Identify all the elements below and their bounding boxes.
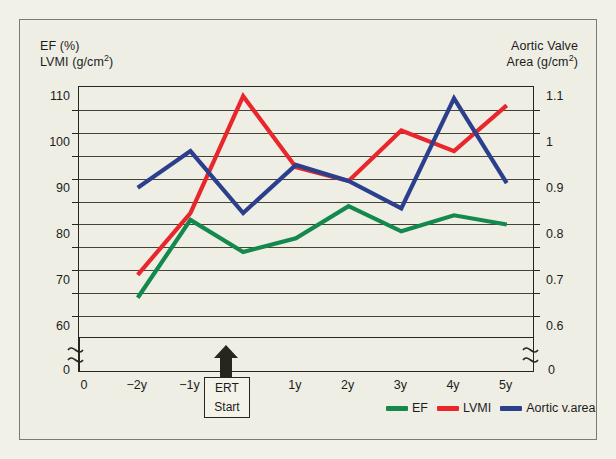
axis-tick-left	[72, 293, 79, 294]
axis-tick-right	[533, 179, 540, 180]
plot-area	[78, 86, 534, 338]
axis-tick-right	[533, 202, 540, 203]
figure-root: EF (%) LVMI (g/cm2) Aortic Valve Area (g…	[0, 0, 616, 459]
axis-tick-right	[533, 270, 540, 271]
right-tick-label: 0.8	[546, 227, 563, 241]
left-axis-title: EF (%) LVMI (g/cm2)	[40, 38, 113, 70]
axis-tick-right	[533, 224, 540, 225]
right-tick-label: 0.7	[546, 273, 563, 287]
right-tick-label: 1	[546, 135, 553, 149]
series-line-aortic-v-area	[138, 98, 507, 213]
x-tick-label: 2y	[341, 378, 354, 392]
axis-tick-left	[72, 247, 79, 248]
axis-tick-left	[72, 156, 79, 157]
axis-tick-right	[533, 133, 540, 134]
plot-gridlines-and-series	[79, 87, 533, 337]
chart-legend: EFLVMIAortic v.area	[386, 401, 595, 415]
ert-start-label: ERT Start	[204, 377, 250, 418]
legend-item: EF	[386, 401, 428, 415]
x-tick-label: 3y	[394, 378, 407, 392]
left-tick-label: 90	[56, 181, 70, 195]
axis-tick-left	[72, 270, 79, 271]
axis-break-icon-right	[517, 342, 551, 372]
left-tick-label: 100	[49, 135, 70, 149]
axis-tick-left	[72, 133, 79, 134]
legend-label: Aortic v.area	[526, 401, 595, 415]
left-axis-tick-labels: 11010090807060	[32, 86, 70, 338]
series-line-ef	[138, 206, 507, 298]
ert-label-line2: Start	[205, 398, 249, 417]
right-axis-title-line1: Aortic Valve	[511, 39, 578, 53]
right-axis-tick-labels: 1.110.90.80.70.6	[546, 86, 590, 338]
axis-tick-right	[533, 247, 540, 248]
left-axis-title-line1: EF (%)	[40, 39, 80, 53]
axis-tick-right	[533, 156, 540, 157]
x-tick-label: 1y	[288, 378, 301, 392]
x-tick-label: −2y	[126, 378, 147, 392]
legend-swatch-icon	[386, 406, 408, 411]
axis-tick-left	[72, 202, 79, 203]
left-tick-label: 110	[50, 89, 70, 103]
right-axis-title-line2: Area (g/cm2)	[506, 55, 578, 69]
left-axis-base-label: 0	[34, 363, 70, 377]
right-tick-label: 0.6	[546, 319, 563, 333]
ert-label-line1: ERT	[205, 379, 249, 398]
left-axis-title-line2: LVMI (g/cm2)	[40, 55, 113, 69]
legend-swatch-icon	[437, 406, 459, 411]
axis-tick-right	[533, 293, 540, 294]
right-tick-label: 1.1	[546, 89, 563, 103]
x-tick-label: −1y	[179, 378, 200, 392]
series-line-lvmi	[138, 96, 507, 275]
x-tick-label: 0	[81, 378, 88, 392]
left-tick-label: 80	[56, 227, 70, 241]
axis-tick-left	[72, 316, 79, 317]
axis-tick-right	[533, 110, 540, 111]
right-axis-base-label: 0	[548, 363, 584, 377]
legend-label: EF	[412, 401, 428, 415]
x-tick-label: 5y	[499, 378, 512, 392]
axis-tick-right	[533, 316, 540, 317]
left-tick-label: 70	[56, 273, 70, 287]
legend-swatch-icon	[500, 406, 522, 411]
axis-tick-left	[72, 224, 79, 225]
axis-tick-left	[72, 179, 79, 180]
legend-item: LVMI	[437, 401, 491, 415]
axis-tick-left	[72, 110, 79, 111]
left-tick-label: 60	[56, 319, 70, 333]
x-tick-label: 4y	[446, 378, 459, 392]
legend-item: Aortic v.area	[500, 401, 595, 415]
right-axis-title: Aortic Valve Area (g/cm2)	[506, 38, 578, 70]
legend-label: LVMI	[463, 401, 491, 415]
right-tick-label: 0.9	[546, 181, 563, 195]
x-axis-baseline	[78, 371, 534, 372]
ert-start-arrow-icon	[213, 345, 239, 377]
series-lines	[79, 87, 535, 339]
